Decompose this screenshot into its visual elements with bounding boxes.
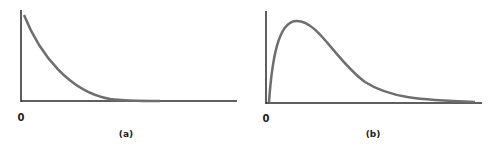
curve-b bbox=[269, 21, 475, 102]
curve-a bbox=[24, 15, 160, 101]
panel-a: 0 (a) bbox=[18, 10, 237, 139]
panel-b: 0 (b) bbox=[263, 11, 482, 139]
origin-label-b: 0 bbox=[263, 113, 270, 124]
origin-label-a: 0 bbox=[18, 112, 25, 123]
panel-label-b: (b) bbox=[366, 129, 381, 139]
figure: 0 (a) 0 (b) bbox=[0, 0, 495, 153]
panel-label-a: (a) bbox=[119, 129, 133, 139]
